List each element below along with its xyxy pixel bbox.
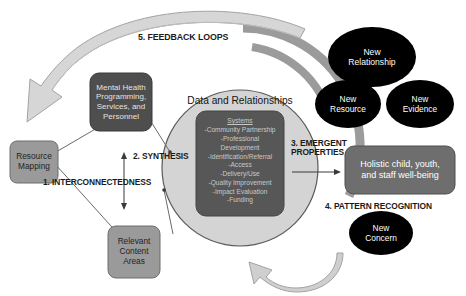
box-holistic-wellbeing-label: Holistic child, youth, and staff well-be… — [345, 146, 455, 194]
systems-list-content: Systems -Community Partnership -Professi… — [196, 113, 284, 216]
label-feedback-loops: 5. FEEDBACK LOOPS — [138, 33, 228, 43]
systems-item: -Professional — [221, 135, 259, 144]
ellipse-new-relationship-label: New Relationship — [328, 42, 416, 72]
systems-heading: Systems — [227, 117, 252, 126]
systems-item: -Access — [228, 161, 251, 170]
systems-item: Development — [221, 144, 260, 153]
box-relevant-content-label: Relevant Content Areas — [108, 226, 160, 278]
systems-item: -Delivery/Use — [220, 170, 260, 179]
box-mental-health-label: Mental Health Programming, Services, and… — [90, 73, 152, 131]
systems-item: -Community Partnership — [204, 126, 275, 135]
label-synthesis: 2. SYNTHESIS — [133, 152, 189, 161]
systems-item: -Impact Evaluation — [213, 188, 268, 197]
pattern-recognition-arrow — [249, 253, 343, 292]
connector-mentalhealth-to-circle — [150, 120, 170, 152]
systems-item: -Funding — [227, 196, 253, 205]
systems-item: -Identification/Referral — [208, 153, 273, 162]
systems-item: -Quality Improvement — [208, 179, 271, 188]
ellipse-new-evidence-label: New Evidence — [386, 91, 454, 117]
data-relationships-title: Data and Relationships — [178, 93, 302, 109]
ellipse-new-resource-label: New Resource — [315, 91, 381, 117]
label-pattern-recognition: 4. PATTERN RECOGNITION — [325, 202, 432, 211]
diagram-canvas: Resource Mapping Mental Health Programmi… — [0, 0, 466, 296]
label-emergent-properties: 3. EMERGENT PROPERTIES — [291, 139, 347, 158]
ellipse-new-concern-label: New Concern — [349, 221, 413, 245]
label-interconnectedness: 1. INTERCONNECTEDNESS — [43, 178, 151, 187]
